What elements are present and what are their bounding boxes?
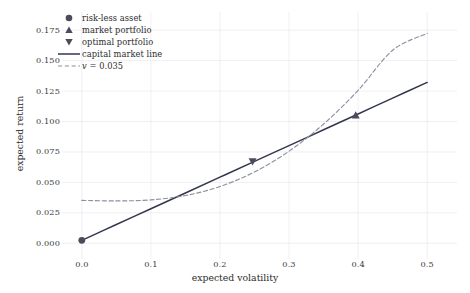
x-tick-label: 0.0 <box>62 259 102 269</box>
y-tick-label: 0.050 <box>20 177 60 187</box>
chart-legend: risk-less assetmarket portfoliooptimal p… <box>56 12 162 72</box>
triangle-up-icon <box>56 24 82 36</box>
y-tick-label: 0.100 <box>20 116 60 126</box>
x-tick-label: 0.2 <box>200 259 240 269</box>
x-tick-label: 0.4 <box>338 259 378 269</box>
y-tick-label: 0.075 <box>20 146 60 156</box>
y-tick-label: 0.125 <box>20 86 60 96</box>
legend-item[interactable]: capital market line <box>56 49 162 60</box>
legend-label: risk-less asset <box>82 13 142 23</box>
dashed-line-icon <box>56 60 82 72</box>
y-tick-label: 0.000 <box>20 238 60 248</box>
marker-optimal-portfolio <box>249 158 257 165</box>
y-tick-label: 0.175 <box>20 25 60 35</box>
x-tick-label: 0.5 <box>407 259 447 269</box>
y-tick-label: 0.150 <box>20 55 60 65</box>
legend-label: market portfolio <box>82 25 151 35</box>
circle-icon <box>56 12 82 24</box>
legend-item[interactable]: risk-less asset <box>56 12 162 23</box>
solid-line-icon <box>56 48 82 60</box>
legend-item[interactable]: v = 0.035 <box>56 61 162 72</box>
y-tick-label: 0.025 <box>20 207 60 217</box>
x-axis-label: expected volatility <box>0 272 470 283</box>
x-tick-label: 0.1 <box>131 259 171 269</box>
legend-label: capital market line <box>82 49 162 59</box>
marker-risk-less-asset <box>78 237 85 244</box>
legend-item[interactable]: market portfolio <box>56 24 162 35</box>
legend-item[interactable]: optimal portfolio <box>56 36 162 47</box>
chart-figure: 0.0000.0250.0500.0750.1000.1250.1500.175… <box>0 0 470 293</box>
legend-label: v = 0.035 <box>82 61 123 71</box>
x-tick-label: 0.3 <box>269 259 309 269</box>
legend-label: optimal portfolio <box>82 37 153 47</box>
y-axis-label: expected return <box>14 79 25 189</box>
triangle-down-icon <box>56 36 82 48</box>
